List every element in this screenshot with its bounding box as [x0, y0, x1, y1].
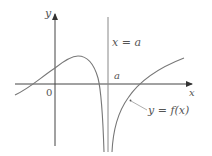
x-axis-label: x [189, 88, 195, 98]
graph-canvas [0, 0, 212, 156]
asymptote-equation-label: x = a [112, 37, 141, 48]
curve-label-pointer-dot [130, 100, 132, 102]
curve-label: y = f(x) [148, 105, 189, 116]
y-axis-label: y [45, 8, 51, 19]
curve-left-branch [15, 56, 104, 152]
asymptote-tick-label: a [114, 71, 120, 81]
function-graph: y 0 a x x = a y = f(x) [0, 0, 212, 156]
curve-label-leader [131, 101, 147, 110]
origin-label: 0 [46, 88, 52, 98]
